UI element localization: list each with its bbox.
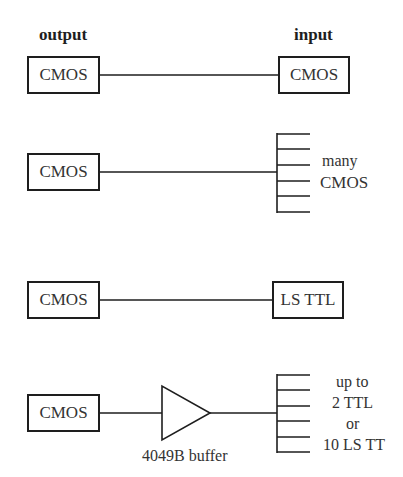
load-box-row-1: CMOS <box>278 56 350 94</box>
fanout-label-row-2-line-1: many <box>322 152 358 170</box>
fanout-label-row-4-line-3: or <box>346 415 359 433</box>
driver-box-row-1: CMOS <box>27 56 100 94</box>
buffer-label: 4049B buffer <box>142 447 227 465</box>
load-box-row-3: LS TTL <box>272 281 344 319</box>
input-header: input <box>294 25 333 45</box>
output-header: output <box>39 25 87 45</box>
driver-box-row-4: CMOS <box>27 394 100 432</box>
fanout-bus-row-4 <box>277 374 310 453</box>
fanout-label-row-2-line-2: CMOS <box>320 173 368 193</box>
fanout-label-row-4-line-2: 2 TTL <box>332 394 373 412</box>
fanout-bus-row-2 <box>277 133 310 213</box>
buffer-triangle-icon <box>162 386 210 440</box>
driver-box-row-3: CMOS <box>27 281 100 319</box>
fanout-label-row-4-line-1: up to <box>336 373 368 391</box>
fanout-label-row-4-line-4: 10 LS TT <box>323 436 385 454</box>
driver-box-row-2: CMOS <box>27 153 100 191</box>
